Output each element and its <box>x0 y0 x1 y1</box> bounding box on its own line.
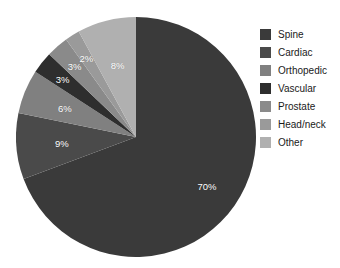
legend-swatch-icon <box>260 65 271 76</box>
chart-legend: SpineCardiacOrthopedicVascularProstateHe… <box>256 0 340 151</box>
legend-item-label: Other <box>278 137 303 148</box>
legend-swatch-icon <box>260 119 271 130</box>
legend-swatch-icon <box>260 83 271 94</box>
legend-item-cardiac[interactable]: Cardiac <box>260 43 340 61</box>
legend-swatch-icon <box>260 137 271 148</box>
legend-item-label: Head/neck <box>278 119 326 130</box>
legend-item-orthopedic[interactable]: Orthopedic <box>260 61 340 79</box>
legend-item-label: Cardiac <box>278 47 312 58</box>
legend-swatch-icon <box>260 101 271 112</box>
pie-plot-area: 70%9%6%3%3%2%8% <box>0 0 256 268</box>
legend-item-label: Prostate <box>278 101 315 112</box>
legend-item-label: Orthopedic <box>278 65 327 76</box>
pie-chart-figure: 70%9%6%3%3%2%8% SpineCardiacOrthopedicVa… <box>0 0 340 268</box>
pie-svg <box>16 17 256 257</box>
legend-item-other[interactable]: Other <box>260 133 340 151</box>
legend-item-vascular[interactable]: Vascular <box>260 79 340 97</box>
legend-item-spine[interactable]: Spine <box>260 25 340 43</box>
legend-swatch-icon <box>260 29 271 40</box>
legend-item-head-neck[interactable]: Head/neck <box>260 115 340 133</box>
legend-item-label: Spine <box>278 29 304 40</box>
legend-item-label: Vascular <box>278 83 316 94</box>
legend-swatch-icon <box>260 47 271 58</box>
legend-item-prostate[interactable]: Prostate <box>260 97 340 115</box>
